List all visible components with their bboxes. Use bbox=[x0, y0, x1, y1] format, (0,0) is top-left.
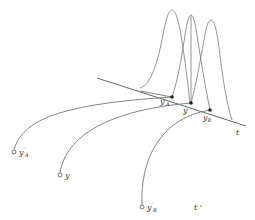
source-point-y-prime bbox=[58, 173, 62, 177]
diagram-canvas: y′A y yB t y′A y′ y′B t ' bbox=[0, 0, 255, 220]
source-point-yB-prime bbox=[140, 205, 144, 209]
trajectory-y bbox=[60, 103, 191, 173]
point-yB bbox=[208, 108, 212, 112]
label-t: t bbox=[236, 128, 240, 137]
label-t-prime: t ' bbox=[194, 203, 202, 212]
peak-left bbox=[140, 10, 190, 103]
point-y bbox=[189, 101, 193, 105]
trajectory-yB bbox=[142, 110, 210, 205]
point-yA-prime bbox=[170, 95, 174, 99]
label-src-yB-prime: y′B bbox=[146, 201, 157, 213]
approach-line-upper bbox=[140, 91, 172, 97]
trajectory-yA bbox=[14, 97, 172, 150]
label-y: y bbox=[182, 106, 188, 115]
source-point-yA-prime bbox=[12, 150, 16, 154]
label-src-y-prime: y′ bbox=[64, 169, 72, 180]
label-src-yA-prime: y′A bbox=[18, 146, 29, 158]
